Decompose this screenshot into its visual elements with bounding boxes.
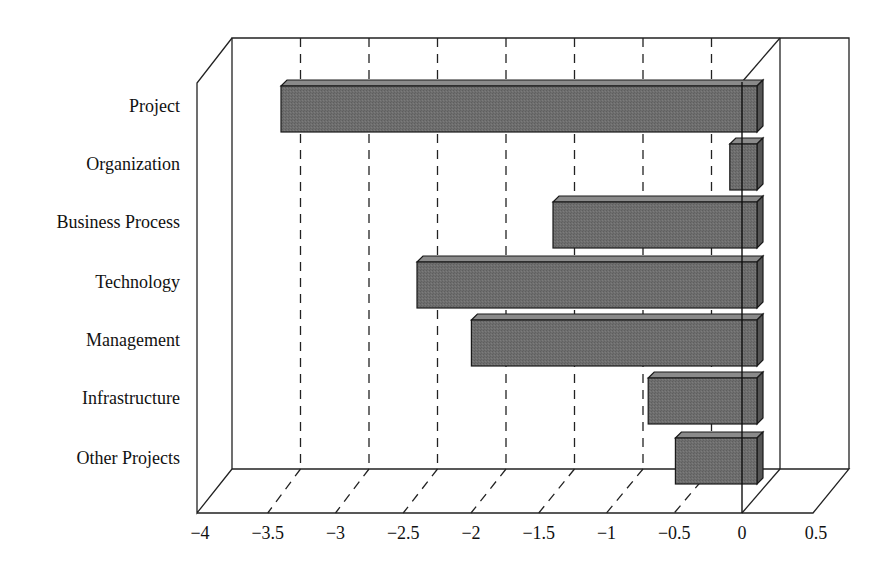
bar [675, 432, 763, 484]
bar [730, 138, 763, 190]
bar [417, 256, 763, 308]
floor-gridline [539, 469, 575, 513]
bar-front [553, 202, 757, 248]
category-label: Project [129, 96, 180, 117]
category-label: Infrastructure [82, 388, 180, 409]
bar-front [730, 144, 757, 190]
x-tick-label: 0.5 [805, 523, 828, 544]
x-tick-label: −2 [461, 523, 480, 544]
x-tick-label: −1.5 [522, 523, 555, 544]
x-tick-label: −1 [597, 523, 616, 544]
floor-gridline [403, 469, 437, 513]
bars [281, 80, 763, 484]
category-label: Management [86, 330, 180, 351]
bar-top [281, 80, 763, 86]
category-label: Technology [95, 272, 180, 293]
bar [281, 80, 763, 132]
bar-front [471, 320, 757, 366]
bar-side [757, 314, 763, 366]
bar-side [757, 80, 763, 132]
bar-front [675, 438, 757, 484]
bar-top [553, 196, 763, 202]
x-tick-label: −4 [190, 523, 209, 544]
left-wall [197, 38, 232, 513]
floor-gridline [336, 469, 370, 513]
floor-gridline [607, 469, 644, 513]
bar [648, 372, 763, 424]
x-tick-label: 0 [738, 523, 747, 544]
floor-gridline [471, 469, 506, 513]
bar-side [757, 432, 763, 484]
bar-front [648, 378, 757, 424]
bar [553, 196, 763, 248]
x-tick-label: −2.5 [387, 523, 420, 544]
x-tick-label: −3.5 [251, 523, 284, 544]
bar-side [757, 138, 763, 190]
bar-side [757, 196, 763, 248]
category-label: Organization [86, 154, 180, 175]
bar-top [648, 372, 763, 378]
x-tick-label: −3 [326, 523, 345, 544]
category-label: Business Process [56, 212, 180, 233]
bar-side [757, 256, 763, 308]
x-tick-label: −0.5 [658, 523, 691, 544]
category-label: Other Projects [77, 448, 180, 469]
bar-top [417, 256, 763, 262]
bar-front [417, 262, 757, 308]
bar-top [675, 432, 763, 438]
bar-top [471, 314, 763, 320]
floor-gridline [268, 469, 301, 513]
bar [471, 314, 763, 366]
bar-front [281, 86, 757, 132]
bar-side [757, 372, 763, 424]
